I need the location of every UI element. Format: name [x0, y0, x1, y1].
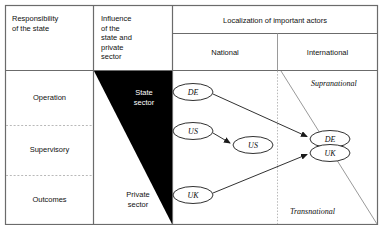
row-label-operation: Operation	[6, 93, 93, 103]
header-responsibility-of-state: Responsibility of the state	[12, 14, 90, 33]
sector-label-state-sector: State sector	[118, 88, 170, 107]
node-label-us-mid: US	[233, 141, 273, 150]
row-label-supervisory: Supervisory	[6, 145, 93, 155]
row-label-outcomes: Outcomes	[6, 195, 93, 205]
header-localization-of-important-actors: Localization of important actors	[173, 16, 377, 26]
header-influence-of-state-and-private-sector: Influence of the state and private secto…	[101, 14, 169, 62]
node-label-us-national: US	[173, 127, 213, 136]
header-national: National	[173, 48, 277, 58]
node-label-uk-international: UK	[310, 149, 350, 158]
node-label-de-national: DE	[173, 88, 213, 97]
sector-label-private-sector: Private sector	[112, 190, 164, 209]
zone-label-supranational: Supranational	[311, 79, 357, 88]
zone-label-transnational: Transnational	[290, 207, 335, 216]
header-international: International	[278, 48, 377, 58]
node-label-de-international: DE	[310, 135, 350, 144]
node-label-uk-national: UK	[173, 191, 213, 200]
